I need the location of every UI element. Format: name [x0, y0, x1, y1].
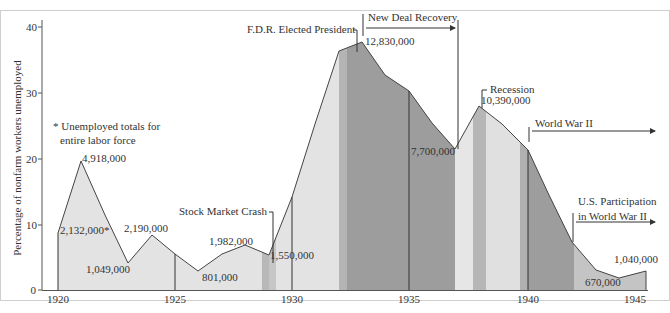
annotation-new-deal: New Deal Recovery — [368, 11, 458, 23]
value-label-1933: 12,830,000 — [365, 35, 415, 47]
value-label-1928: 1,982,000 — [209, 235, 254, 247]
annotation-recession: Recession — [490, 83, 535, 95]
x-tick-1930: 1930 — [281, 293, 304, 305]
annotation-stock-market-crash: Stock Market Crash — [179, 205, 267, 217]
y-tick-20: 20 — [26, 153, 38, 165]
value-label-1929: 1,550,000 — [270, 249, 315, 261]
value-label-1944: 670,000 — [585, 276, 621, 288]
value-label-1937: 7,700,000 — [411, 145, 456, 157]
y-tick-10: 10 — [26, 219, 38, 231]
value-label-1945: 1,040,000 — [614, 253, 659, 265]
footnote-line-1: * Unemployed totals for — [53, 120, 161, 132]
y-tick-40: 40 — [26, 21, 38, 33]
annotation-world-war-ii: World War II — [535, 117, 593, 129]
y-axis-label: Percentage of nonfarm workers unemployed — [11, 60, 23, 256]
value-label-1924: 2,190,000 — [124, 222, 169, 234]
value-label-1938: 10,390,000 — [481, 94, 531, 106]
unemployment-chart: 0 10 20 30 40 Percentage of nonfarm work… — [0, 0, 670, 313]
x-tick-1925: 1925 — [164, 293, 187, 305]
value-label-1920: 2,132,000* — [60, 224, 110, 236]
value-label-1926: 801,000 — [202, 271, 238, 283]
y-tick-0: 0 — [31, 284, 37, 296]
annotation-fdr-elected: F.D.R. Elected President — [247, 23, 355, 35]
value-label-1921: 4,918,000 — [82, 152, 127, 164]
x-tick-1945: 1945 — [624, 293, 647, 305]
footnote-line-2: entire labor force — [60, 134, 136, 146]
value-label-1923: 1,049,000 — [86, 263, 131, 275]
y-tick-30: 30 — [26, 87, 38, 99]
area-fill — [58, 0, 648, 290]
annotation-us-participation-line-1: U.S. Participation — [578, 195, 657, 207]
x-tick-1940: 1940 — [517, 293, 540, 305]
x-tick-1920: 1920 — [47, 293, 70, 305]
annotation-us-participation-line-2: in World War II — [578, 210, 647, 222]
x-tick-1935: 1935 — [398, 293, 421, 305]
